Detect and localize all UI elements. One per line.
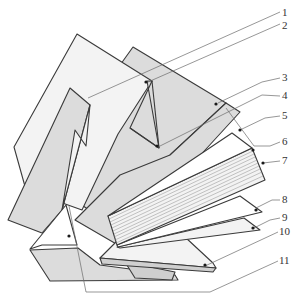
callout-4: 4 <box>282 89 288 101</box>
callout-3: 3 <box>282 71 288 83</box>
callout-labels: 1 2 3 4 5 6 7 8 9 10 11 <box>279 6 291 266</box>
callout-8: 8 <box>282 193 288 205</box>
callout-1: 1 <box>282 6 288 18</box>
callout-5: 5 <box>282 109 288 121</box>
callout-6: 6 <box>282 135 288 147</box>
callout-11: 11 <box>279 254 290 266</box>
callout-2: 2 <box>282 19 288 31</box>
layer-diagram: 1 2 3 4 5 6 7 8 9 10 11 <box>0 0 298 303</box>
callout-10: 10 <box>279 225 291 237</box>
callout-7: 7 <box>282 154 288 166</box>
callout-9: 9 <box>282 211 288 223</box>
